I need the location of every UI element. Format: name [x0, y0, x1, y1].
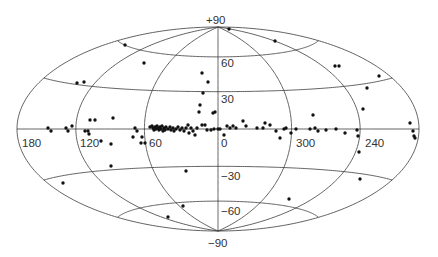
- data-point: [182, 129, 185, 132]
- latitude-label: −60: [221, 205, 241, 217]
- data-point: [140, 135, 143, 138]
- data-point: [234, 126, 237, 129]
- data-point: [200, 71, 203, 74]
- data-point: [287, 197, 290, 200]
- data-point: [99, 139, 102, 142]
- data-point: [187, 131, 190, 134]
- data-point: [261, 126, 264, 129]
- data-point: [206, 80, 209, 83]
- data-point: [278, 136, 281, 139]
- data-point: [294, 127, 297, 130]
- data-point: [231, 124, 234, 127]
- data-point: [200, 123, 203, 126]
- data-point: [184, 169, 187, 172]
- data-point: [193, 133, 196, 136]
- longitude-label: 0: [221, 137, 227, 149]
- data-point: [337, 64, 340, 67]
- latitude-label: +90: [206, 14, 226, 26]
- data-point: [358, 177, 361, 180]
- longitude-label: 300: [296, 137, 315, 149]
- data-point: [180, 126, 183, 129]
- data-point: [176, 125, 179, 128]
- data-point: [411, 129, 414, 132]
- data-point: [195, 126, 198, 129]
- data-point: [142, 61, 145, 64]
- longitude-label: 120: [80, 137, 99, 149]
- data-point: [181, 204, 184, 207]
- data-point: [228, 126, 231, 129]
- data-point: [123, 43, 126, 46]
- data-point: [197, 110, 200, 113]
- data-point: [66, 129, 69, 132]
- longitude-label: 180: [22, 137, 41, 149]
- data-point: [166, 215, 169, 218]
- data-point: [46, 126, 49, 129]
- data-point: [225, 124, 228, 127]
- data-point: [289, 131, 292, 134]
- data-point: [203, 123, 206, 126]
- latitude-label: 60: [221, 57, 234, 69]
- data-point: [356, 134, 359, 137]
- data-point: [241, 119, 244, 122]
- data-point: [333, 64, 336, 67]
- data-point: [82, 80, 85, 83]
- data-point: [168, 125, 171, 128]
- data-point: [355, 128, 358, 131]
- data-point: [49, 129, 52, 132]
- data-point: [184, 126, 187, 129]
- data-point: [86, 129, 89, 132]
- data-point: [93, 118, 96, 121]
- longitude-label: 60: [149, 137, 162, 149]
- data-point: [313, 126, 316, 129]
- data-point: [311, 113, 314, 116]
- data-point: [408, 121, 411, 124]
- data-point: [263, 121, 266, 124]
- data-point: [135, 129, 138, 132]
- longitude-label: 240: [365, 137, 384, 149]
- data-point: [143, 141, 146, 144]
- data-point: [111, 116, 114, 119]
- data-point: [109, 164, 112, 167]
- data-point: [284, 126, 287, 129]
- data-point: [205, 128, 208, 131]
- data-point: [131, 135, 134, 138]
- data-point: [198, 103, 201, 106]
- data-point: [273, 39, 276, 42]
- data-point: [171, 126, 174, 129]
- data-point: [209, 128, 212, 131]
- data-point: [244, 124, 247, 127]
- data-point: [357, 150, 360, 153]
- data-point: [413, 136, 416, 139]
- data-point: [163, 128, 166, 131]
- data-point: [365, 86, 368, 89]
- data-point: [268, 123, 271, 126]
- data-point: [212, 127, 215, 130]
- data-point: [361, 107, 364, 110]
- data-point: [87, 132, 90, 135]
- latitude-label: −90: [208, 237, 228, 249]
- source-points: [46, 27, 416, 218]
- data-point: [308, 127, 311, 130]
- data-point: [139, 141, 142, 144]
- data-point: [218, 127, 221, 130]
- data-point: [255, 126, 258, 129]
- data-point: [109, 142, 112, 145]
- data-point: [191, 129, 194, 132]
- data-point: [189, 126, 192, 129]
- data-point: [88, 118, 91, 121]
- data-point: [377, 74, 380, 77]
- data-point: [201, 91, 204, 94]
- data-point: [227, 27, 230, 30]
- data-point: [61, 181, 64, 184]
- data-point: [133, 126, 136, 129]
- data-point: [64, 126, 67, 129]
- galactic-sky-map: 180120600300240+906030−30−60−90: [0, 0, 438, 257]
- data-point: [75, 81, 78, 84]
- data-point: [334, 127, 337, 130]
- data-point: [343, 131, 346, 134]
- latitude-label: −30: [221, 170, 241, 182]
- data-point: [83, 129, 86, 132]
- data-point: [324, 128, 327, 131]
- data-point: [274, 129, 277, 132]
- data-point: [186, 123, 189, 126]
